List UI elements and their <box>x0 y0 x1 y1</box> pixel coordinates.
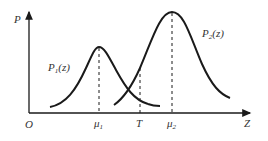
threshold-label: T <box>136 117 143 129</box>
gaussian-diagram: P Z O P1(z) P2(z) μ1 T μ2 <box>0 0 268 141</box>
curve-p2-label: P2(z) <box>201 27 224 41</box>
y-axis-label: P <box>13 13 21 25</box>
x-axis-label: Z <box>244 117 251 129</box>
mu2-label: μ2 <box>166 117 177 131</box>
origin-label: O <box>25 118 33 130</box>
mu1-label: μ1 <box>93 117 103 131</box>
curve-p1-label: P1(z) <box>47 61 70 75</box>
curve-p1-tail <box>148 104 160 106</box>
